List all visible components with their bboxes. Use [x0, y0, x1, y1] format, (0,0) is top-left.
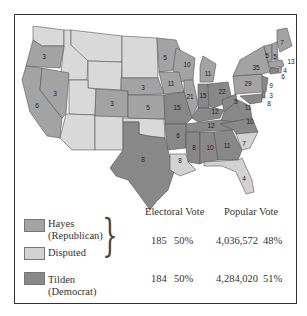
svg-text:5: 5: [273, 53, 277, 60]
legend-swatch-disputed: [24, 247, 45, 260]
state-az: [60, 114, 95, 150]
svg-text:3: 3: [141, 84, 145, 91]
hayes-popular: 4,036,572: [216, 235, 258, 246]
svg-text:6: 6: [176, 132, 180, 139]
hayes-popular-pct: 48%: [263, 235, 282, 246]
svg-text:22: 22: [218, 88, 226, 95]
legend-brace: }: [102, 214, 117, 258]
tilden-electoral-pct: 50%: [174, 273, 193, 284]
state-fl: [204, 158, 254, 194]
svg-text:8: 8: [141, 156, 145, 163]
svg-text:9: 9: [269, 82, 273, 89]
svg-text:5: 5: [234, 98, 238, 105]
svg-text:11: 11: [245, 104, 252, 111]
state-de: [262, 92, 265, 98]
svg-text:21: 21: [186, 93, 194, 100]
svg-text:6: 6: [281, 73, 285, 80]
tilden-popular-pct: 51%: [263, 273, 282, 284]
svg-text:12: 12: [207, 122, 215, 129]
legend-label-disputed: Disputed: [48, 247, 86, 259]
svg-text:4: 4: [242, 175, 246, 182]
svg-text:5: 5: [146, 104, 150, 111]
legend-label-tilden: Tilden (Democrat): [48, 274, 96, 298]
svg-text:11: 11: [205, 70, 212, 77]
hayes-line1: Hayes: [48, 218, 103, 230]
svg-text:10: 10: [183, 61, 191, 68]
svg-text:8: 8: [178, 157, 182, 164]
svg-text:10: 10: [246, 118, 254, 125]
tilden-popular: 4,284,020: [216, 273, 258, 284]
svg-text:13: 13: [287, 58, 295, 65]
tilden-electoral: 184: [151, 273, 167, 284]
svg-text:6: 6: [35, 102, 39, 109]
hayes-electoral: 185: [151, 235, 167, 246]
svg-text:15: 15: [199, 92, 207, 99]
svg-text:3: 3: [42, 53, 46, 60]
svg-text:29: 29: [244, 80, 252, 87]
legend-swatch-hayes: [24, 219, 45, 232]
popular-vote-header: Popular Vote: [224, 206, 278, 217]
state-wy: [88, 61, 122, 90]
svg-text:12: 12: [211, 108, 219, 115]
legend-label-hayes: Hayes (Republican): [48, 218, 103, 242]
svg-text:10: 10: [206, 144, 214, 151]
state-nj: [262, 76, 268, 92]
hayes-electoral-pct: 50%: [174, 235, 193, 246]
svg-text:3: 3: [110, 100, 114, 107]
svg-text:11: 11: [168, 80, 175, 87]
electoral-vote-header: Electoral Vote: [145, 206, 204, 217]
legend-swatch-tilden: [24, 272, 45, 285]
svg-text:5: 5: [265, 52, 269, 59]
svg-text:8: 8: [267, 100, 271, 107]
tilden-line1: Tilden: [48, 274, 96, 286]
tilden-line2: (Democrat): [48, 286, 96, 298]
state-nm: [95, 115, 123, 150]
svg-text:15: 15: [173, 104, 181, 111]
state-dakotas: [122, 36, 158, 78]
svg-text:11: 11: [224, 142, 231, 149]
svg-text:35: 35: [252, 64, 260, 71]
state-ny: [233, 46, 270, 76]
us-map: 3 6 3 3 3 5 8 5 10 11 21 15 11 15 22 12 …: [0, 0, 307, 316]
hayes-line2: (Republican): [48, 230, 103, 242]
state-ct: [270, 68, 278, 74]
svg-text:3: 3: [53, 90, 57, 97]
svg-text:8: 8: [192, 144, 196, 151]
svg-text:7: 7: [242, 140, 246, 147]
svg-text:3: 3: [269, 92, 273, 99]
svg-text:7: 7: [280, 39, 284, 46]
svg-text:5: 5: [163, 54, 167, 61]
